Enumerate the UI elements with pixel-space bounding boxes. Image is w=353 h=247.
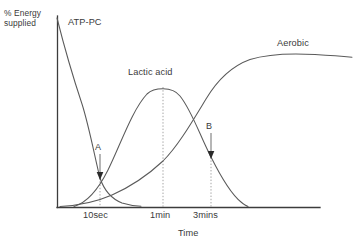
x-tick-label-3mins: 3mins (193, 210, 218, 220)
curve-atp-pc (57, 18, 141, 206)
y-axis-title-line1: % Energy (4, 8, 41, 18)
marker-b-arrowhead (208, 151, 215, 159)
curve-label-atp-pc: ATP-PC (68, 17, 102, 27)
x-tick-label-1min: 1min (150, 210, 170, 220)
energy-systems-chart: % Energy supplied ATP-PC Lactic acid Aer… (0, 0, 353, 247)
y-axis-title: % Energy supplied (4, 8, 56, 29)
curve-label-aerobic: Aerobic (277, 38, 309, 48)
y-axis-title-line2: supplied (4, 18, 56, 28)
x-tick-label-10sec: 10sec (83, 210, 108, 220)
curve-label-lactic-acid: Lactic acid (128, 67, 173, 77)
annotation-label-b: B (206, 121, 212, 131)
marker-a-arrowhead (97, 172, 104, 180)
x-axis-title: Time (178, 228, 198, 238)
annotation-label-a: A (95, 142, 101, 152)
